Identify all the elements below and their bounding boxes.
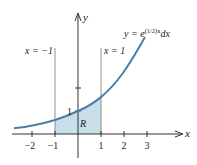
svg-text:2: 2 <box>122 140 127 151</box>
svg-text:1: 1 <box>99 140 104 151</box>
svg-text:3: 3 <box>145 140 150 151</box>
region-label: R <box>79 118 86 129</box>
axis-y-label: y <box>82 11 88 23</box>
y-tick-label-1: 1 <box>67 106 72 117</box>
svg-text:−1: −1 <box>48 140 59 151</box>
axis-x-label: x <box>184 127 190 139</box>
svg-text:−2: −2 <box>25 140 36 151</box>
curve-label: y = e(1/2)xdx <box>123 27 171 39</box>
right-bound-label: x = 1 <box>103 45 125 56</box>
left-bound-label: x = −1 <box>24 45 53 56</box>
integral-diagram: y x y = e(1/2)xdx x = −1 x = 1 1 R −2 −1… <box>0 0 197 165</box>
x-tick-labels: −2 −1 1 2 3 <box>25 140 150 151</box>
